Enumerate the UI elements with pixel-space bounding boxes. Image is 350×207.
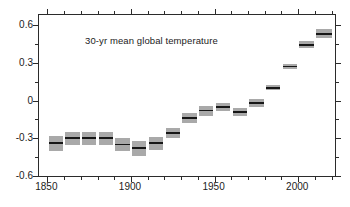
- x-axis-minor-tick: [114, 11, 115, 15]
- data-bar: [199, 106, 213, 116]
- y-axis-tick: [335, 176, 341, 177]
- x-axis-tick: [215, 9, 216, 15]
- data-bar: [99, 132, 113, 145]
- x-axis-minor-tick: [315, 176, 316, 180]
- y-axis-minor-tick: [35, 44, 39, 45]
- x-axis-minor-tick: [248, 176, 249, 180]
- x-axis-minor-tick: [98, 11, 99, 15]
- data-bar: [299, 41, 313, 47]
- x-axis-minor-tick: [332, 176, 333, 180]
- y-axis-tick: [335, 138, 341, 139]
- y-axis-minor-tick: [35, 157, 39, 158]
- data-bar: [216, 103, 230, 111]
- x-axis-minor-tick: [181, 11, 182, 15]
- data-bar: [149, 137, 163, 150]
- bar-median-line: [266, 87, 280, 89]
- bar-median-line: [82, 137, 96, 139]
- x-axis-minor-tick: [181, 176, 182, 180]
- y-axis-labels: 0.60.30-0.3-0.6: [0, 14, 33, 177]
- data-bar: [65, 132, 79, 145]
- x-axis-minor-tick: [81, 11, 82, 15]
- data-bar: [166, 128, 180, 138]
- data-bar: [82, 132, 96, 145]
- data-bar: [233, 108, 247, 116]
- bar-median-line: [132, 147, 146, 149]
- bar-median-line: [99, 137, 113, 139]
- bar-median-line: [166, 132, 180, 134]
- data-bar: [266, 85, 280, 90]
- data-bar: [316, 29, 332, 38]
- data-series: [39, 15, 335, 176]
- x-axis-minor-tick: [148, 11, 149, 15]
- bar-median-line: [316, 33, 332, 35]
- y-axis-tick: [335, 101, 341, 102]
- x-axis-minor-tick: [265, 176, 266, 180]
- x-axis-tick-label: 2000: [286, 181, 308, 192]
- data-bar: [115, 138, 129, 151]
- x-axis-tick: [131, 9, 132, 15]
- y-axis-minor-tick: [335, 44, 339, 45]
- plot-area: 30-yr mean global temperature: [38, 14, 336, 177]
- bar-median-line: [199, 110, 213, 112]
- bar-median-line: [283, 66, 297, 68]
- x-axis-minor-tick: [281, 176, 282, 180]
- y-axis-tick: [33, 101, 39, 102]
- x-axis-minor-tick: [114, 176, 115, 180]
- data-bar: [283, 64, 297, 69]
- x-axis-minor-tick: [265, 11, 266, 15]
- x-axis-minor-tick: [148, 176, 149, 180]
- x-axis-tick-label: 1950: [202, 181, 224, 192]
- bar-median-line: [216, 106, 230, 108]
- x-axis-minor-tick: [164, 11, 165, 15]
- x-axis-minor-tick: [315, 11, 316, 15]
- x-axis-minor-tick: [198, 11, 199, 15]
- bar-median-line: [149, 142, 163, 144]
- x-axis-minor-tick: [198, 176, 199, 180]
- x-axis-minor-tick: [164, 176, 165, 180]
- x-axis-tick-label: 1850: [35, 181, 57, 192]
- x-axis-minor-tick: [231, 176, 232, 180]
- y-axis-minor-tick: [335, 82, 339, 83]
- bar-median-line: [182, 117, 196, 119]
- x-axis-tick: [298, 9, 299, 15]
- y-axis-tick: [335, 63, 341, 64]
- x-axis-minor-tick: [231, 11, 232, 15]
- y-axis-tick-label: -0.6: [16, 170, 33, 181]
- y-axis-tick: [33, 138, 39, 139]
- y-axis-tick-label: 0.6: [19, 19, 33, 30]
- x-axis-tick-label: 1900: [119, 181, 141, 192]
- x-axis-minor-tick: [332, 11, 333, 15]
- bar-median-line: [249, 102, 263, 104]
- x-axis-minor-tick: [281, 11, 282, 15]
- bar-median-line: [65, 137, 79, 139]
- x-axis-minor-tick: [81, 176, 82, 180]
- bar-median-line: [299, 44, 313, 46]
- x-axis-minor-tick: [64, 11, 65, 15]
- y-axis-tick: [33, 63, 39, 64]
- data-bar: [49, 136, 63, 151]
- bar-median-line: [233, 111, 247, 113]
- y-axis-tick-label: 0: [27, 94, 33, 105]
- y-axis-tick-label: 0.3: [19, 56, 33, 67]
- x-axis-minor-tick: [64, 176, 65, 180]
- y-axis-tick: [335, 25, 341, 26]
- y-axis-tick: [33, 25, 39, 26]
- data-bar: [249, 99, 263, 107]
- x-axis-minor-tick: [248, 11, 249, 15]
- y-axis-minor-tick: [35, 82, 39, 83]
- y-axis-minor-tick: [335, 119, 339, 120]
- y-axis-tick-label: -0.3: [16, 132, 33, 143]
- x-axis-tick: [47, 9, 48, 15]
- x-axis-minor-tick: [98, 176, 99, 180]
- x-axis-labels: 1850190019502000: [38, 181, 336, 197]
- data-bar: [182, 113, 196, 123]
- y-axis-minor-tick: [335, 157, 339, 158]
- y-axis-tick: [33, 176, 39, 177]
- bar-median-line: [49, 142, 63, 144]
- y-axis-minor-tick: [35, 119, 39, 120]
- chart-figure: 0.60.30-0.3-0.6 30-yr mean global temper…: [0, 0, 350, 207]
- data-bar: [132, 141, 146, 156]
- bar-median-line: [115, 144, 129, 146]
